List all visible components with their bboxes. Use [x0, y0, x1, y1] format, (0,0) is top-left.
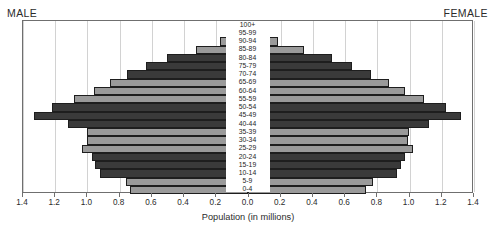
male-bar — [87, 136, 247, 144]
female-bar — [248, 46, 304, 54]
x-axis-tick-label: 0.2 — [274, 198, 285, 207]
female-cell — [248, 112, 473, 120]
x-axis-tick — [248, 193, 249, 197]
pyramid-row — [23, 178, 472, 186]
female-cell — [248, 62, 473, 70]
male-bar — [127, 70, 247, 78]
chart-title — [0, 0, 496, 3]
male-bar — [92, 153, 248, 161]
male-cell — [23, 120, 248, 128]
x-axis-tick — [86, 193, 87, 197]
female-bar — [248, 153, 405, 161]
pyramid-row — [23, 37, 472, 45]
x-axis-tick — [376, 193, 377, 197]
female-bar — [248, 29, 261, 37]
female-cell — [248, 161, 473, 169]
male-bar — [74, 95, 247, 103]
x-axis-tick — [280, 193, 281, 197]
x-axis-tick-label: 0.4 — [306, 198, 317, 207]
pyramid-row — [23, 87, 472, 95]
female-bar — [248, 120, 429, 128]
x-axis-tick — [183, 193, 184, 197]
male-cell — [23, 87, 248, 95]
male-cell — [23, 37, 248, 45]
female-cell — [248, 128, 473, 136]
female-cell — [248, 153, 473, 161]
male-bar — [196, 46, 247, 54]
plot-area: 100+95-9990-9485-8980-8475-7970-7465-696… — [22, 20, 473, 193]
x-axis-tick-label: 0.2 — [210, 198, 221, 207]
male-axis-label: MALE — [7, 7, 37, 19]
bars-layer — [23, 21, 472, 192]
x-axis-tick-label: 1.0 — [81, 198, 92, 207]
x-axis-tick — [22, 193, 23, 197]
male-bar — [220, 37, 247, 45]
female-bar — [248, 79, 389, 87]
pyramid-row — [23, 153, 472, 161]
female-cell — [248, 70, 473, 78]
x-axis-tick-label: 0.6 — [338, 198, 349, 207]
x-axis-tick-label: 0.8 — [113, 198, 124, 207]
pyramid-row — [23, 145, 472, 153]
female-cell — [248, 103, 473, 111]
pyramid-row — [23, 120, 472, 128]
male-cell — [23, 54, 248, 62]
female-bar — [248, 128, 410, 136]
male-bar — [167, 54, 247, 62]
x-axis-tick-label: 1.0 — [403, 198, 414, 207]
pyramid-row — [23, 112, 472, 120]
male-cell — [23, 79, 248, 87]
x-axis-tick-label: 1.2 — [49, 198, 60, 207]
female-cell — [248, 37, 473, 45]
male-bar — [52, 103, 248, 111]
x-axis-tick-label: 1.2 — [435, 198, 446, 207]
female-cell — [248, 136, 473, 144]
x-axis-tick — [441, 193, 442, 197]
gridline — [474, 21, 475, 192]
pyramid-row — [23, 161, 472, 169]
male-bar — [68, 120, 248, 128]
x-axis-tick — [312, 193, 313, 197]
x-axis-tick-label: 1.4 — [467, 198, 478, 207]
population-pyramid-chart: MALE FEMALE 100+95-9990-9485-8980-8475-7… — [0, 0, 496, 242]
female-bar — [248, 70, 371, 78]
female-cell — [248, 169, 473, 177]
male-cell — [23, 95, 248, 103]
female-cell — [248, 54, 473, 62]
x-axis-tick-label: 0.0 — [242, 198, 253, 207]
female-cell — [248, 21, 473, 29]
female-cell — [248, 120, 473, 128]
x-axis-tick-label: 1.4 — [16, 198, 27, 207]
male-bar — [126, 178, 248, 186]
pyramid-row — [23, 46, 472, 54]
male-cell — [23, 62, 248, 70]
female-cell — [248, 178, 473, 186]
x-axis-tick — [54, 193, 55, 197]
male-bar — [87, 128, 247, 136]
pyramid-row — [23, 128, 472, 136]
x-axis-tick — [409, 193, 410, 197]
pyramid-row — [23, 79, 472, 87]
male-cell — [23, 161, 248, 169]
female-bar — [248, 54, 333, 62]
male-cell — [23, 145, 248, 153]
female-bar — [248, 103, 447, 111]
female-bar — [248, 87, 405, 95]
female-bar — [248, 21, 251, 29]
male-bar — [94, 87, 248, 95]
pyramid-row — [23, 103, 472, 111]
female-cell — [248, 145, 473, 153]
female-bar — [248, 161, 402, 169]
pyramid-row — [23, 21, 472, 29]
x-axis-tick-label: 0.8 — [371, 198, 382, 207]
male-cell — [23, 29, 248, 37]
male-bar — [82, 145, 247, 153]
pyramid-row — [23, 169, 472, 177]
female-cell — [248, 79, 473, 87]
x-axis-tick — [151, 193, 152, 197]
female-bar — [248, 62, 352, 70]
male-cell — [23, 128, 248, 136]
x-axis-tick — [119, 193, 120, 197]
male-cell — [23, 70, 248, 78]
male-cell — [23, 103, 248, 111]
